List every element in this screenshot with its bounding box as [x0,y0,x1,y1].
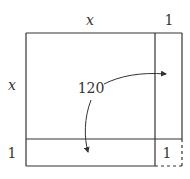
left-x-label: x [8,77,16,93]
left-one-label: 1 [8,145,17,161]
outer-rectangle [26,33,182,166]
corner-one-label: 1 [163,145,172,161]
arrow-to-bottom-strip-icon [85,100,91,152]
top-x-label: x [86,12,94,28]
top-one-label: 1 [165,12,174,28]
completing-square-diagram: x 1 x 1 120 1 [0,0,190,179]
arrow-to-right-strip-icon [104,73,166,84]
center-value-label: 120 [78,80,105,96]
